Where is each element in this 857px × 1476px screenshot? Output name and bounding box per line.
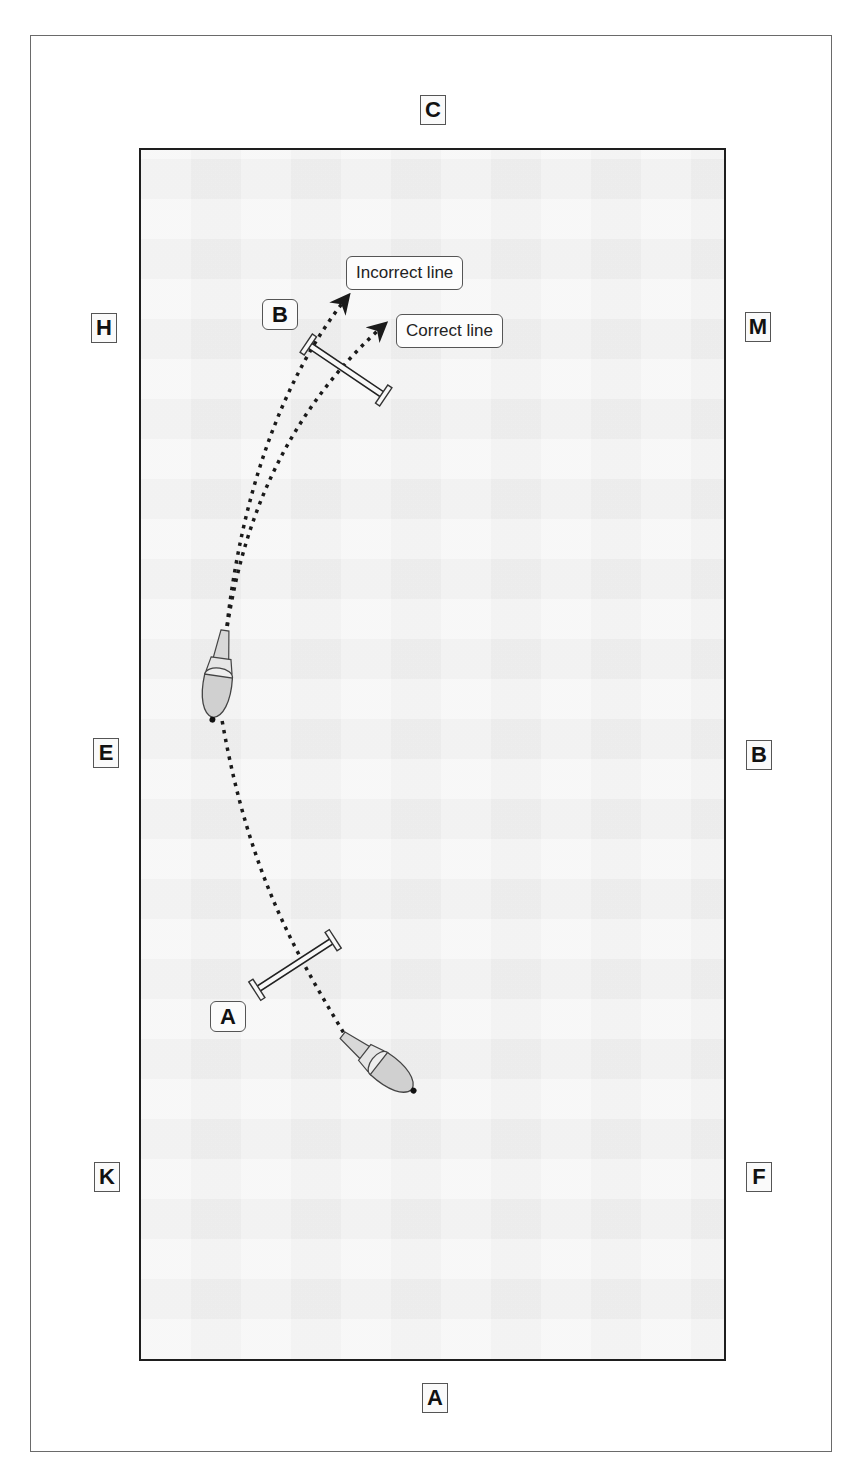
horse-rider-icon-lower xyxy=(334,1024,425,1104)
incorrect-line-callout: Incorrect line xyxy=(346,256,463,290)
fence-a-pole xyxy=(249,930,341,1001)
incorrect-line-path xyxy=(226,296,348,635)
riding-paths xyxy=(0,0,857,1476)
fence-a-label: A xyxy=(210,1001,246,1032)
correct-line-callout: Correct line xyxy=(396,314,503,348)
fence-b-pole xyxy=(300,334,392,406)
fence-b-label: B xyxy=(262,299,298,330)
correct-line-path xyxy=(226,324,385,635)
path-lower-dotted xyxy=(222,720,348,1040)
horse-rider-icon-upper xyxy=(198,628,239,724)
